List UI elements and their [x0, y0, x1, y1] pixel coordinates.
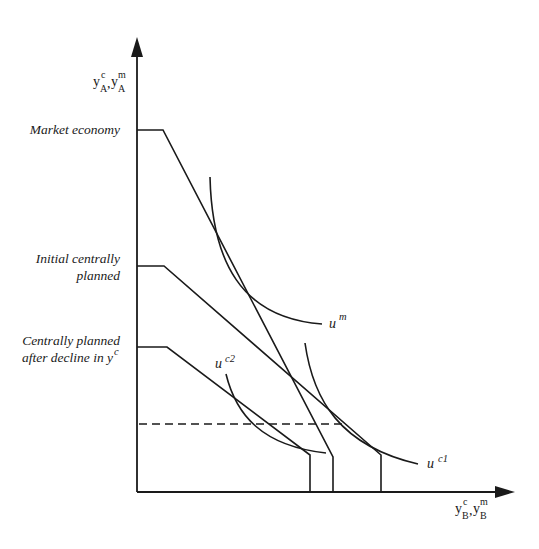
y-axis-label-sup-1: c: [101, 69, 106, 80]
x-axis-label-base-1: y: [455, 501, 462, 516]
label-uc2-base: u: [215, 356, 222, 371]
curve-labels: u m u c1 u c2: [215, 311, 448, 471]
diagram-canvas: y c A , y m A y c B , y m B Market econo…: [0, 0, 539, 549]
label-uc1-base: u: [427, 456, 434, 471]
x-axis-arrow-icon: [495, 486, 515, 498]
label-initial-centrally-planned-2: planned: [76, 268, 121, 283]
axes: [131, 37, 515, 498]
level-labels: Market economy Initial centrally planned…: [22, 122, 120, 365]
label-um-base: u: [329, 316, 336, 331]
x-axis-label-sub-1: B: [462, 510, 469, 521]
label-centrally-planned-decline-sup: c: [114, 346, 119, 357]
label-uc1-sup: c1: [438, 453, 448, 464]
x-axis-label-sup-1: c: [463, 496, 468, 507]
frontier-centrally-planned-decline: [137, 347, 310, 492]
x-axis-label-sub-2: B: [480, 510, 487, 521]
frontier-market-economy: [137, 130, 333, 492]
y-axis-label: y c A , y m A: [93, 69, 126, 94]
y-axis-label-base-2: y: [111, 74, 118, 89]
y-axis-label-sup-2: m: [118, 69, 126, 80]
x-axis-label: y c B , y m B: [455, 496, 488, 521]
curve-um: [210, 177, 322, 324]
label-um-sup: m: [339, 311, 347, 322]
label-initial-centrally-planned-1: Initial centrally: [35, 251, 120, 266]
label-market-economy: Market economy: [29, 122, 120, 137]
label-centrally-planned-decline-2: after decline in y: [22, 350, 113, 365]
y-axis-label-sub-2: A: [118, 83, 126, 94]
frontier-initial-centrally-planned: [137, 266, 381, 492]
x-axis-label-base-2: y: [473, 501, 480, 516]
x-axis-label-sep: ,: [469, 503, 473, 518]
label-centrally-planned-decline-1: Centrally planned: [22, 333, 120, 348]
y-axis-arrow-icon: [131, 37, 143, 57]
label-uc2-sup: c2: [225, 353, 236, 364]
x-axis-label-sup-2: m: [480, 496, 488, 507]
y-axis-label-sep: ,: [107, 76, 111, 91]
y-axis-label-base-1: y: [93, 74, 100, 89]
